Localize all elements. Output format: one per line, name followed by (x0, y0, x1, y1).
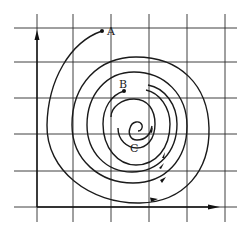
spiral-diagram: A B C (0, 0, 248, 227)
point-a-dot (100, 29, 104, 33)
point-b-label: B (119, 78, 127, 91)
spiral (47, 31, 209, 203)
arrowhead-ring3-icon (159, 163, 164, 169)
spiral-path (47, 31, 209, 203)
x-axis-arrow-icon (208, 205, 220, 210)
y-axis-arrow-icon (35, 30, 40, 40)
point-c-label: C (130, 142, 138, 155)
arrowhead-ring2-icon (160, 177, 166, 183)
arrowhead-ring4-icon (162, 152, 165, 158)
point-a-label: A (106, 25, 116, 38)
